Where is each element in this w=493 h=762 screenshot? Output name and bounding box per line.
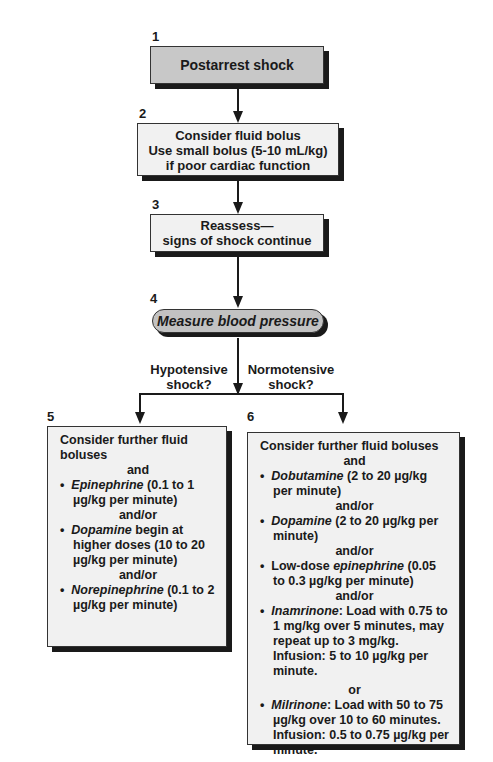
list-item-epinephrine: • Epinephrine (0.1 to 1 µg/kg per minute… — [60, 478, 216, 508]
drug-name: epinephrine — [333, 559, 404, 573]
drug-name: Epinephrine — [71, 478, 143, 492]
step-line: signs of shock continue — [151, 233, 323, 248]
panel-hypotensive-treatment: Consider further fluid boluses and • Epi… — [47, 426, 227, 647]
step-number-2: 2 — [139, 107, 146, 120]
step-box-postarrest-shock: Postarrest shock — [150, 46, 324, 84]
arrow-down-icon — [233, 296, 243, 308]
drug-name: Norepinephrine — [71, 583, 163, 597]
bullet-icon: • — [260, 469, 264, 483]
bullet-icon: • — [260, 514, 264, 528]
drug-name: Dopamine — [71, 523, 131, 537]
branch-label-hypotensive: Hypotensive shock? — [145, 362, 233, 392]
connector-and-or: and/or — [260, 544, 449, 559]
bullet-icon: • — [260, 559, 264, 573]
connector-line — [237, 257, 239, 297]
step-number-4: 4 — [150, 292, 157, 305]
branch-label-line: Hypotensive — [145, 362, 233, 377]
connector-and-or: and/or — [60, 568, 216, 583]
step-line: Reassess— — [151, 218, 323, 233]
bullet-icon: • — [260, 698, 264, 712]
connector-line — [342, 393, 344, 413]
connector-and: and — [60, 463, 216, 478]
arrow-down-icon — [233, 111, 243, 123]
step-box-measure-bp: Measure blood pressure — [152, 309, 324, 333]
bullet-icon: • — [60, 478, 64, 492]
drug-name: Milrinone — [271, 698, 327, 712]
connector-and: and — [260, 454, 449, 469]
connector-and-or: and/or — [260, 499, 449, 514]
list-item-milrinone: • Milrinone: Load with 50 to 75 µg/kg ov… — [260, 698, 449, 758]
branch-horizontal-line — [139, 393, 344, 395]
panel-intro: Consider further fluid boluses — [260, 439, 449, 454]
step-line: if poor cardiac function — [138, 158, 338, 173]
step-number-3: 3 — [152, 198, 159, 211]
connector-and-or: and/or — [260, 589, 449, 604]
step-number-5: 5 — [47, 410, 54, 423]
branch-label-line: Normotensive — [243, 362, 339, 377]
list-item-dobutamine: • Dobutamine (2 to 20 µg/kg per minute) — [260, 469, 449, 499]
bullet-icon: • — [60, 583, 64, 597]
arrow-down-icon — [233, 202, 243, 214]
connector-or: or — [260, 683, 449, 698]
list-item-inamrinone: • Inamrinone: Load with 0.75 to 1 mg/kg … — [260, 604, 449, 679]
list-item-norepinephrine: • Norepinephrine (0.1 to 2 µg/kg per min… — [60, 583, 216, 613]
step-number-6: 6 — [247, 410, 254, 423]
list-item-low-dose-epinephrine: • Low-dose epinephrine (0.05 to 0.3 µg/k… — [260, 559, 449, 589]
drug-prefix: Low-dose — [271, 559, 333, 573]
panel-intro: Consider further fluid boluses — [60, 433, 216, 463]
step-box-fluid-bolus: Consider fluid bolus Use small bolus (5-… — [137, 123, 339, 176]
connector-line — [237, 181, 239, 203]
connector-line — [139, 393, 141, 413]
connector-and-or: and/or — [60, 508, 216, 523]
step-box-reassess: Reassess— signs of shock continue — [150, 214, 324, 252]
arrow-down-icon — [338, 412, 348, 424]
list-item-dopamine: • Dopamine begin at higher doses (10 to … — [60, 523, 216, 568]
branch-label-line: shock? — [145, 377, 233, 392]
bullet-icon: • — [60, 523, 64, 537]
branch-label-normotensive: Normotensive shock? — [243, 362, 339, 392]
arrow-down-icon — [135, 412, 145, 424]
branch-label-line: shock? — [243, 377, 339, 392]
drug-name: Dobutamine — [271, 469, 343, 483]
step-line: Use small bolus (5-10 mL/kg) — [138, 143, 338, 158]
drug-name: Dopamine — [271, 514, 331, 528]
step-number-1: 1 — [152, 30, 159, 43]
list-item-dopamine: • Dopamine (2 to 20 µg/kg per minute) — [260, 514, 449, 544]
panel-normotensive-treatment: Consider further fluid boluses and • Dob… — [247, 432, 460, 745]
drug-name: Inamrinone — [271, 604, 338, 618]
bullet-icon: • — [260, 604, 264, 618]
step-line: Consider fluid bolus — [138, 128, 338, 143]
connector-line — [237, 89, 239, 113]
